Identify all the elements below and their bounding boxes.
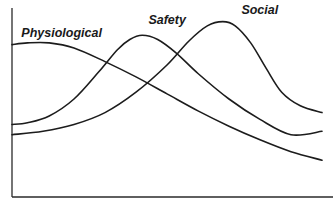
series-line-physiological (12, 42, 322, 160)
series-line-safety (12, 35, 322, 135)
label-layer: Physiological Safety Social (21, 3, 278, 40)
series-label-physiological: Physiological (21, 26, 102, 40)
series-label-social: Social (241, 3, 278, 17)
needs-curves-chart: Physiological Safety Social (0, 0, 335, 205)
series-label-safety: Safety (148, 13, 187, 27)
series-layer (12, 22, 322, 161)
